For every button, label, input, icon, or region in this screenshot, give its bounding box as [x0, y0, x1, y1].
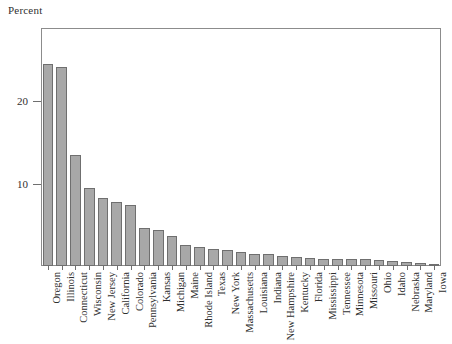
x-tick-label: Minnesota [355, 272, 365, 316]
x-tick-label: Louisiana [259, 272, 269, 313]
x-tick-label: Rhode Island [204, 272, 214, 328]
bar [222, 250, 233, 266]
x-tick-label: Illinois [66, 272, 76, 302]
x-tick [241, 266, 242, 270]
x-tick [420, 266, 421, 270]
x-tick [158, 266, 159, 270]
x-tick-label: Ohio [383, 272, 393, 293]
x-tick [393, 266, 394, 270]
bar [194, 247, 205, 266]
x-tick-label: Maine [190, 272, 200, 299]
x-tick [379, 266, 380, 270]
x-tick-label: New York [231, 272, 241, 315]
bar [125, 205, 136, 266]
plot-area [41, 28, 441, 266]
bar [263, 254, 274, 266]
bar [346, 259, 357, 266]
x-tick [103, 266, 104, 270]
bar [332, 259, 343, 266]
x-tick-label: Kansas [162, 272, 172, 302]
x-tick-label: Pennsylvania [148, 272, 158, 328]
x-tick [324, 266, 325, 270]
y-tick [33, 184, 41, 185]
x-tick [227, 266, 228, 270]
x-tick-label: Massachusetts [245, 272, 255, 333]
x-tick-label: Texas [217, 272, 227, 296]
x-tick-label: New Jersey [107, 272, 117, 321]
x-tick [434, 266, 435, 270]
x-tick [296, 266, 297, 270]
x-tick-label: Maryland [424, 272, 434, 313]
x-tick [351, 266, 352, 270]
x-tick-label: Iowa [438, 272, 448, 293]
bar [318, 259, 329, 266]
x-tick [338, 266, 339, 270]
x-tick [172, 266, 173, 270]
bar [180, 245, 191, 266]
bar [84, 188, 95, 266]
bar [249, 254, 260, 266]
chart-root: Percent OregonIllinoisConnecticutWiscons… [0, 0, 452, 344]
bar [111, 202, 122, 266]
bar [70, 155, 81, 266]
x-tick [186, 266, 187, 270]
x-tick [131, 266, 132, 270]
x-tick [255, 266, 256, 270]
x-tick [75, 266, 76, 270]
x-tick [269, 266, 270, 270]
x-tick [89, 266, 90, 270]
bar [167, 236, 178, 266]
x-tick [48, 266, 49, 270]
x-tick-label: Tennessee [342, 272, 352, 315]
x-tick [117, 266, 118, 270]
x-tick-label: Oregon [52, 272, 62, 304]
x-tick-label: Michigan [176, 272, 186, 312]
x-tick-label: California [121, 272, 131, 315]
bar [208, 249, 219, 266]
x-tick [310, 266, 311, 270]
x-tick-label: Colorado [135, 272, 145, 311]
x-tick-label: Idaho [397, 272, 407, 296]
x-tick-label: Indiana [273, 272, 283, 304]
x-tick [200, 266, 201, 270]
bar [277, 256, 288, 266]
bar [56, 67, 67, 266]
y-tick [33, 101, 41, 102]
x-tick-label: New Hampshire [286, 272, 296, 341]
x-tick-label: Wisconsin [93, 272, 103, 316]
x-tick [407, 266, 408, 270]
bar [305, 258, 316, 266]
x-tick-label: Nebraska [411, 272, 421, 312]
x-tick-label: Kentucky [300, 272, 310, 313]
x-tick [213, 266, 214, 270]
y-tick-label: 20 [4, 95, 28, 107]
bar [98, 198, 109, 266]
x-tick [365, 266, 366, 270]
bar [153, 230, 164, 266]
y-tick-label: 10 [4, 178, 28, 190]
bar [291, 257, 302, 266]
x-tick [144, 266, 145, 270]
bar [360, 259, 371, 266]
x-tick-label: Missouri [369, 272, 379, 309]
bar [43, 64, 54, 266]
x-tick-label: Connecticut [79, 272, 89, 323]
x-tick-label: Mississippi [328, 272, 338, 320]
x-tick-label: Florida [314, 272, 324, 302]
x-tick [282, 266, 283, 270]
bar [139, 228, 150, 266]
x-axis-labels: OregonIllinoisConnecticutWisconsinNew Je… [0, 272, 452, 344]
x-tick [62, 266, 63, 270]
bar [236, 252, 247, 266]
